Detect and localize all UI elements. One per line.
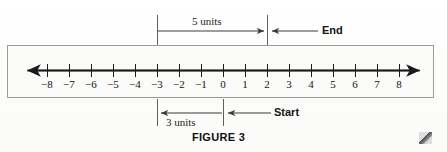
axis-tick-label: −7	[57, 78, 81, 90]
axis-tick	[201, 64, 202, 77]
start-marker-label: Start	[274, 106, 299, 118]
axis-tick	[355, 64, 356, 77]
axis-tick	[267, 64, 268, 77]
axis-tick-label: 3	[277, 78, 301, 90]
axis-tick-label: −5	[101, 78, 125, 90]
axis-tick-label: −2	[167, 78, 191, 90]
axis-tick-label: 7	[365, 78, 389, 90]
figure-container: −8 −7 −6 −5 −4 −3 −2 −1 0 1 2 3 4 5 6 7 …	[0, 0, 447, 152]
axis-tick	[157, 64, 158, 77]
axis-tick-label: −3	[145, 78, 169, 90]
number-line-panel	[7, 45, 434, 98]
axis-tick	[311, 64, 312, 77]
axis-tick-label: −6	[79, 78, 103, 90]
axis-tick-label: −8	[35, 78, 59, 90]
top-span-label: 5 units	[192, 15, 222, 27]
axis-tick-label: 2	[255, 78, 279, 90]
axis-tick	[333, 64, 334, 77]
axis-tick	[399, 64, 400, 77]
axis-tick-label: 8	[387, 78, 411, 90]
axis-tick	[113, 64, 114, 77]
axis-tick	[377, 64, 378, 77]
axis-tick-label: −4	[123, 78, 147, 90]
figure-caption: FIGURE 3	[0, 131, 437, 143]
axis-tick	[245, 64, 246, 77]
axis-tick-label: 6	[343, 78, 367, 90]
bottom-span-label: 3 units	[166, 116, 196, 128]
axis-tick-label: −1	[189, 78, 213, 90]
end-marker-label: End	[322, 24, 343, 36]
axis-tick	[91, 64, 92, 77]
scan-artifact	[419, 132, 432, 144]
axis-tick-label: 4	[299, 78, 323, 90]
axis-tick	[223, 64, 224, 77]
axis-tick	[47, 64, 48, 77]
axis-tick-label: 5	[321, 78, 345, 90]
axis-tick	[179, 64, 180, 77]
axis-tick-label: 0	[211, 78, 235, 90]
axis-tick	[289, 64, 290, 77]
axis-tick	[135, 64, 136, 77]
axis-tick	[69, 64, 70, 77]
axis-tick-label: 1	[233, 78, 257, 90]
